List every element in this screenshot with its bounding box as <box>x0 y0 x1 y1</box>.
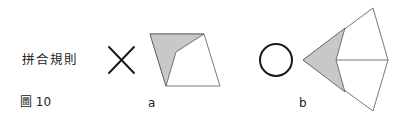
cross-icon <box>109 47 134 73</box>
diagram-artwork <box>0 0 409 121</box>
subfigure-a-shape <box>150 34 220 86</box>
diagram-canvas: 拼合規則 圖 10 a b <box>0 0 409 121</box>
subfigure-b-shape <box>303 8 388 111</box>
circle-icon <box>260 44 292 76</box>
